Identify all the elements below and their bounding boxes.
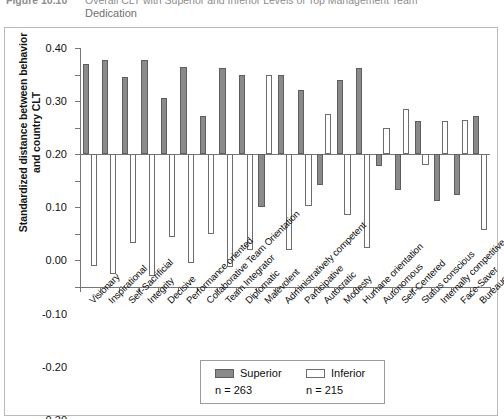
bar-superior-bureaucratic (473, 116, 479, 155)
bar-superior-status-conscious (415, 121, 421, 154)
bar-superior-team-integrator (219, 68, 225, 154)
bar-inferior-decisive (169, 154, 175, 236)
bar-superior-visionary (83, 64, 89, 154)
y-tick-label: 0.10 (46, 201, 67, 213)
y-tick-mark: 0.40 (75, 48, 80, 49)
bar-inferior-autonomous (383, 128, 389, 155)
bar-inferior-collaborative-team-orientation (208, 154, 214, 234)
figure-caption-line-2: Dedication (85, 7, 137, 20)
y-tick-label: 0.30 (46, 95, 67, 107)
legend-label-inferior: Inferior (331, 367, 365, 379)
bar-inferior-self-centered (403, 109, 409, 154)
bar-inferior-performance-oriented (188, 154, 194, 263)
y-tick-label: -0.10 (42, 308, 67, 320)
plot-inner: 0.400.300.200.100.00-0.10-0.20-0.30-0.40… (80, 48, 490, 287)
figure-caption-line-1: Overall CLT with Superior and Inferior L… (85, 0, 417, 7)
chart-panel: Standardized distance between behavior a… (4, 27, 498, 416)
y-tick-mark: -0.40 (75, 260, 80, 261)
bar-superior-self-centered (395, 154, 401, 190)
figure-caption: Figure 10.10 Overall CLT with Superior a… (0, 0, 504, 28)
bar-superior-face-saver (454, 154, 460, 195)
legend-n-inferior: n = 215 (306, 384, 343, 396)
bar-superior-performance-oriented (180, 67, 186, 155)
y-tick-label: 0.40 (46, 42, 67, 54)
bar-superior-diplomatic (239, 75, 245, 155)
y-tick-mark: -0.20 (75, 207, 80, 208)
figure-caption-label: Figure 10.10 (6, 0, 67, 7)
y-tick-label: -0.20 (42, 361, 67, 373)
bar-inferior-bureaucratic (481, 154, 487, 230)
bar-superior-integrity (141, 60, 147, 154)
legend-swatch-inferior-icon (306, 369, 325, 378)
y-tick-label: -0.30 (42, 414, 67, 419)
bar-superior-modesty (337, 80, 343, 154)
bar-inferior-face-saver (462, 120, 468, 155)
y-tick-mark: -0.30 (75, 234, 80, 235)
bar-inferior-integrity (149, 154, 155, 276)
bar-inferior-participative (305, 154, 311, 206)
legend-entry-inferior: Inferior (306, 362, 365, 384)
y-axis-line (80, 48, 81, 287)
bar-inferior-status-conscious (422, 154, 428, 165)
bar-superior-participative (298, 90, 304, 154)
bar-inferior-modesty (344, 154, 350, 215)
bar-inferior-humane-orientation (364, 154, 370, 248)
bar-superior-decisive (161, 98, 167, 154)
legend-n-superior: n = 263 (215, 384, 252, 396)
bar-superior-malevolent (258, 154, 264, 207)
bar-superior-humane-orientation (356, 68, 362, 154)
y-tick-mark: 0.20 (75, 101, 80, 102)
bar-inferior-malevolent (266, 75, 272, 155)
bar-inferior-inspirational (110, 154, 116, 274)
bar-superior-autocratic (317, 154, 323, 185)
bar-superior-self-sacrificial (122, 77, 128, 154)
bar-inferior-autocratic (325, 114, 331, 154)
bar-inferior-self-sacrificial (130, 154, 136, 243)
legend-label-superior: Superior (240, 367, 282, 379)
y-tick-label: 0.00 (46, 254, 67, 266)
bar-superior-inspirational (102, 60, 108, 154)
bar-inferior-internally-competitive (442, 121, 448, 154)
bar-inferior-administratively-competent (286, 154, 292, 250)
y-tick-label: 0.20 (46, 148, 67, 160)
bar-superior-internally-competitive (434, 154, 440, 200)
bar-superior-administratively-competent (278, 75, 284, 155)
plot-area: 0.400.300.200.100.00-0.10-0.20-0.30-0.40… (80, 48, 490, 291)
chart-legend: Superior Inferior n = 263 n = 215 (200, 360, 385, 404)
bar-superior-autonomous (376, 154, 382, 166)
y-tick-mark: -0.10 (75, 181, 80, 182)
legend-entry-superior: Superior (215, 362, 282, 384)
y-axis-title: Standardized distance between behavior a… (17, 23, 42, 243)
bar-superior-collaborative-team-orientation (200, 116, 206, 155)
bar-inferior-visionary (91, 154, 97, 266)
legend-swatch-superior-icon (215, 369, 234, 378)
y-tick-mark: 0.10 (75, 128, 80, 129)
y-tick-mark: 0.30 (75, 75, 80, 76)
